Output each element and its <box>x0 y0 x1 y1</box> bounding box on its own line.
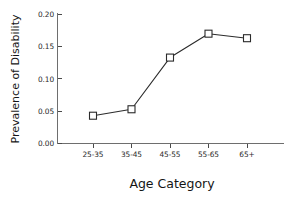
data-point-marker <box>244 35 251 42</box>
x-tick-label-4: 65+ <box>239 150 254 159</box>
data-point-marker <box>205 30 212 37</box>
data-point-marker <box>128 106 135 113</box>
y-tick-label-1: 0.05 <box>38 107 54 116</box>
x-tick-label-3: 55-65 <box>198 150 219 159</box>
chart-figure: 0.00 0.05 0.10 0.15 0.20 25-35 35-45 45-… <box>0 0 296 198</box>
x-tick-label-2: 45-55 <box>160 150 181 159</box>
y-tick-label-3: 0.15 <box>38 42 54 51</box>
x-axis-title: Age Category <box>129 176 215 191</box>
y-axis-title: Prevalence of Disability <box>9 14 22 143</box>
line-chart: 0.00 0.05 0.10 0.15 0.20 25-35 35-45 45-… <box>0 0 296 198</box>
y-tick-label-0: 0.00 <box>38 139 54 148</box>
data-point-marker <box>167 54 174 61</box>
y-tick-label-2: 0.10 <box>38 75 54 84</box>
x-tick-label-0: 25-35 <box>83 150 104 159</box>
chart-background <box>0 0 296 198</box>
data-point-marker <box>90 112 97 119</box>
x-tick-label-1: 35-45 <box>121 150 142 159</box>
y-tick-label-4: 0.20 <box>38 10 54 19</box>
